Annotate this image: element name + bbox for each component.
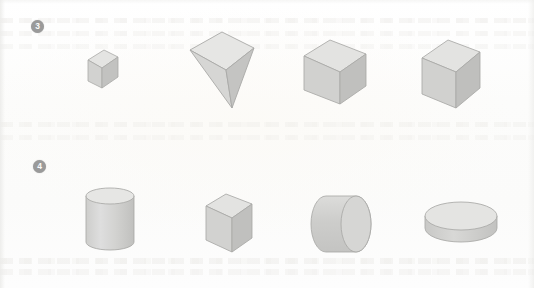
wide-rectangular-prism: [300, 34, 370, 110]
ghost-text-line: [0, 269, 534, 275]
item-number-3: 3: [31, 20, 44, 33]
inverted-pyramid: [186, 28, 258, 114]
flat-disc-cylinder: [420, 198, 502, 248]
page-edge-left: [0, 0, 5, 288]
ghost-text-line: [0, 122, 534, 127]
ghost-text-line: [0, 135, 534, 140]
page-edge-right: [528, 0, 534, 288]
item-number-4: 4: [33, 160, 46, 173]
worksheet-page: 3: [0, 0, 534, 288]
page-edge-top: [0, 0, 534, 4]
ghost-text-line: [0, 258, 534, 264]
small-cube: [80, 46, 120, 92]
horizontal-cylinder: [312, 192, 384, 258]
upright-cylinder: [80, 184, 140, 256]
ghost-text-line: [0, 18, 534, 23]
narrow-rectangular-prism: [200, 188, 260, 258]
tall-rectangular-prism: [418, 34, 488, 114]
